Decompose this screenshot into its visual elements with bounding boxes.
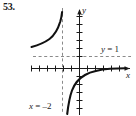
horizontal-asymptote-label: y = 1 [100, 44, 119, 54]
h-asym-eq: = 1 [105, 44, 119, 54]
graph-figure: 53. [0, 0, 136, 116]
curve-left-branch [32, 12, 63, 47]
v-asym-eq: = –2 [33, 101, 52, 111]
x-axis-label: x [125, 70, 130, 80]
y-axis-label: y [81, 5, 86, 15]
vertical-asymptote-label: x = –2 [28, 101, 52, 111]
problem-number-label: 53. [3, 1, 15, 12]
curve-right-branch [67, 68, 125, 114]
cartesian-plot: x y y = 1 x = –2 [0, 0, 136, 116]
